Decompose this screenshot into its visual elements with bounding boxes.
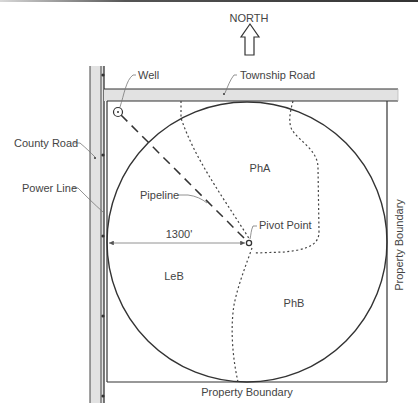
well-icon	[114, 108, 123, 117]
site-plan-diagram: NORTH	[0, 0, 418, 416]
pivot-point-icon	[246, 240, 251, 245]
well-label: Well	[138, 69, 159, 81]
north-arrow-icon	[241, 24, 259, 55]
property-boundary-bottom-label: Property Boundary	[201, 386, 293, 398]
township-road	[104, 89, 398, 101]
pipeline-label: Pipeline	[140, 189, 179, 201]
soil-zone-leb: LeB	[164, 270, 184, 282]
township-road-label: Township Road	[240, 69, 315, 81]
north-label: NORTH	[230, 12, 269, 24]
pivot-point-label: Pivot Point	[259, 219, 312, 231]
dimension-label: 1300'	[166, 228, 193, 240]
county-road	[90, 66, 104, 403]
soil-zone-phb: PhB	[284, 297, 305, 309]
pipeline	[121, 115, 246, 240]
county-road-label: County Road	[14, 137, 78, 149]
soil-zone-pha: PhA	[250, 162, 271, 174]
power-line-label: Power Line	[22, 182, 77, 194]
property-boundary-right-label: Property Boundary	[393, 199, 405, 291]
